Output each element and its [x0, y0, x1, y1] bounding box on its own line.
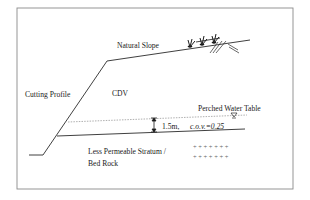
cdv-label: CDV [112, 89, 129, 98]
thickness-label: 1.5m, [162, 122, 179, 131]
stratum-label-line1: Less Permeable Stratum / [88, 147, 167, 156]
rock-symbols-row1: + + + + + + + [193, 143, 229, 150]
slope-cross-section-diagram: Natural Slope Cutting Profile CDV Perche… [0, 0, 310, 200]
cutting-profile-label: Cutting Profile [25, 90, 71, 99]
stratum-label-line2: Bed Rock [88, 159, 118, 168]
natural-slope-label: Natural Slope [117, 41, 160, 50]
perched-water-table-line [68, 115, 247, 122]
rock-symbols-row2: + + + + + + + [193, 153, 229, 160]
double-arrow-icon [151, 118, 157, 132]
perched-water-table-label: Perched Water Table [198, 104, 261, 113]
cov-label: c.o.v.=0.25 [190, 122, 224, 131]
